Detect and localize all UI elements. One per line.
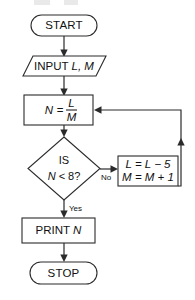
- edge-start-to-input: [60, 36, 67, 57]
- node-input-variables: L, M: [72, 60, 95, 72]
- node-print-label: PRINT N: [36, 224, 83, 236]
- node-decision-line1: IS: [59, 154, 69, 166]
- node-stop-label: STOP: [48, 267, 80, 279]
- node-update-line1: L = L − 5: [126, 158, 172, 170]
- node-compute-lhs: N: [45, 104, 54, 116]
- node-input-label: INPUT L, M: [34, 60, 94, 72]
- edge-input-to-compute: [60, 76, 67, 96]
- flowchart-svg: START INPUT L, M N = L M IS N < 8?: [0, 0, 195, 300]
- node-update[interactable]: L = L − 5 M = M + 1: [118, 156, 178, 186]
- edge-print-to-stop: [60, 243, 67, 262]
- branch-label-no: No: [101, 173, 112, 182]
- node-decision-line2: N < 8?: [48, 169, 81, 181]
- node-stop[interactable]: STOP: [30, 262, 97, 284]
- flowchart-canvas: START INPUT L, M N = L M IS N < 8?: [0, 0, 195, 300]
- node-compute-equals: =: [57, 104, 64, 116]
- node-compute-denominator: M: [67, 111, 77, 123]
- node-print-keyword: PRINT: [36, 224, 70, 236]
- node-compute[interactable]: N = L M: [24, 95, 93, 125]
- node-start[interactable]: START: [31, 15, 97, 36]
- edge-decision-to-print: [60, 200, 67, 218]
- node-start-label: START: [45, 19, 83, 31]
- node-update-line2: M = M + 1: [122, 171, 174, 183]
- node-input-keyword: INPUT: [34, 60, 68, 72]
- node-decision[interactable]: IS N < 8?: [28, 137, 100, 200]
- node-input[interactable]: INPUT L, M: [23, 56, 106, 76]
- edge-compute-to-decision: [60, 125, 67, 137]
- node-decision-variable: N: [48, 169, 56, 181]
- node-print-variable: N: [73, 224, 82, 236]
- node-decision-condition: < 8?: [59, 169, 81, 181]
- node-print[interactable]: PRINT N: [22, 218, 95, 243]
- edge-decision-to-update: [100, 165, 118, 172]
- node-compute-numerator: L: [68, 97, 74, 109]
- branch-label-yes: Yes: [69, 204, 82, 213]
